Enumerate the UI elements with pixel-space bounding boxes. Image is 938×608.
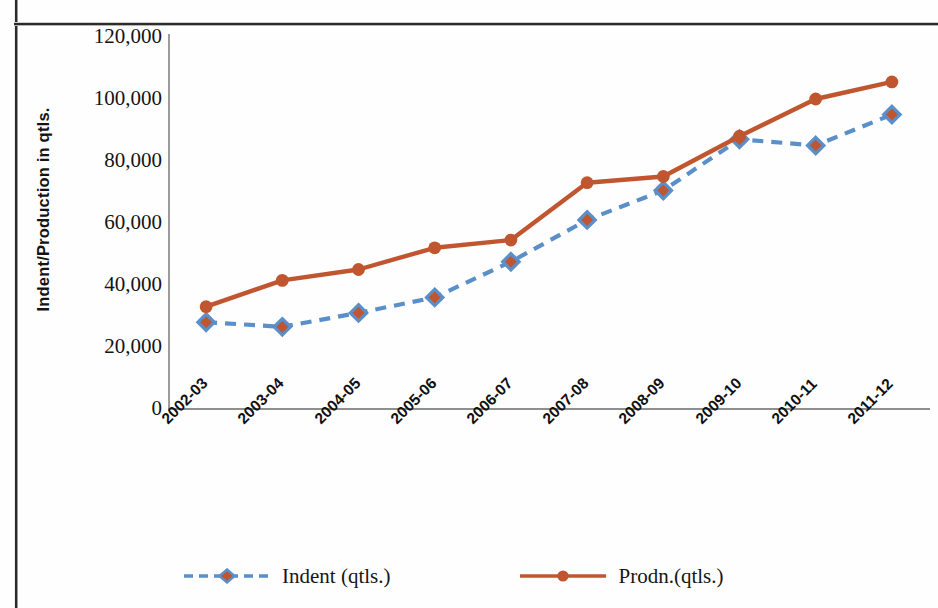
- data-point-marker: [884, 106, 900, 122]
- y-axis-tick-label: 60,000: [62, 212, 162, 233]
- data-point-marker: [505, 234, 518, 247]
- data-point-marker: [200, 300, 213, 313]
- data-point-marker: [886, 76, 899, 89]
- data-point-marker: [808, 137, 824, 153]
- y-axis-tick-label: 80,000: [62, 150, 162, 171]
- data-point-marker: [274, 319, 290, 335]
- y-axis-tick-label: 120,000: [62, 26, 162, 47]
- data-point-marker: [427, 289, 443, 305]
- x-axis-tick-labels: 2002-032003-042004-052005-062006-072007-…: [168, 409, 930, 539]
- legend-label-indent: Indent (qtls.): [282, 564, 390, 589]
- y-axis-tick-label: 20,000: [62, 336, 162, 357]
- data-point-marker: [733, 130, 746, 143]
- legend-item-indent: Indent (qtls.): [184, 564, 390, 589]
- chart-legend: Indent (qtls.) Prodn.(qtls.): [168, 556, 868, 596]
- data-point-marker: [657, 170, 670, 183]
- y-axis-tick-label: 0: [62, 398, 162, 419]
- legend-key-indent: [184, 568, 270, 584]
- data-point-marker: [581, 176, 594, 189]
- data-point-marker: [428, 241, 441, 254]
- y-axis-tick-label: 100,000: [62, 88, 162, 109]
- data-point-marker: [198, 314, 214, 330]
- y-axis-title: Indent/Production in qtls.: [34, 45, 53, 375]
- data-point-marker: [276, 274, 289, 287]
- legend-label-production: Prodn.(qtls.): [618, 564, 723, 589]
- plot-area: [168, 37, 930, 409]
- series-canvas: [168, 37, 930, 409]
- series-line: [206, 82, 892, 307]
- line-chart: Indent/Production in qtls. 120,000100,00…: [0, 0, 938, 608]
- data-point-marker: [503, 254, 519, 270]
- data-point-marker: [579, 212, 595, 228]
- data-point-marker: [352, 263, 365, 276]
- data-point-marker: [809, 93, 822, 106]
- series-line: [206, 115, 892, 327]
- y-axis-tick-labels: 120,000100,00080,00060,00040,00020,0000: [52, 0, 162, 608]
- legend-item-production: Prodn.(qtls.): [520, 564, 723, 589]
- scanned-figure: Indent/Production in qtls. 120,000100,00…: [0, 0, 938, 608]
- y-axis-tick-label: 40,000: [62, 274, 162, 295]
- data-point-marker: [350, 305, 366, 321]
- data-point-marker: [655, 182, 671, 198]
- legend-key-production: [520, 568, 606, 584]
